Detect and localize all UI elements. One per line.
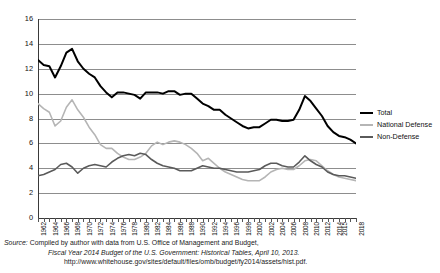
x-axis-tick <box>135 218 136 222</box>
x-axis-tick <box>129 218 130 222</box>
y-axis-tick-label: 2 <box>5 189 33 196</box>
x-axis-tick <box>55 218 56 222</box>
legend-item: Non-Defense <box>360 132 438 142</box>
x-axis-tick-label: 1972 <box>97 222 104 236</box>
x-axis-tick <box>339 218 340 222</box>
x-axis-tick-label: 2012 <box>324 222 331 236</box>
x-axis-tick-label: 1982 <box>154 222 161 236</box>
x-axis-tick <box>146 218 147 222</box>
x-axis-tick <box>333 218 334 222</box>
x-axis-tick-label: 2010 <box>313 222 320 236</box>
y-axis-labels: 0246810121416 <box>0 0 33 238</box>
x-axis-tick <box>288 218 289 222</box>
x-axis-tick <box>174 218 175 222</box>
x-axis-tick <box>169 218 170 222</box>
x-axis-tick <box>259 218 260 222</box>
legend-swatch <box>360 136 373 138</box>
x-axis-tick <box>140 218 141 222</box>
x-axis-tick-label: 1964 <box>52 222 59 236</box>
x-axis-tick <box>299 218 300 222</box>
x-axis-tick <box>322 218 323 222</box>
x-axis-tick <box>265 218 266 222</box>
x-axis-tick <box>38 218 39 222</box>
x-axis-tick <box>242 218 243 222</box>
x-axis-tick <box>294 218 295 222</box>
x-axis-tick <box>305 218 306 222</box>
y-axis-tick-label: 12 <box>5 65 33 72</box>
x-axis-tick-label: 1992 <box>211 222 218 236</box>
x-axis-tick <box>277 218 278 222</box>
x-axis-tick <box>72 218 73 222</box>
x-axis-tick <box>95 218 96 222</box>
x-axis-tick <box>220 218 221 222</box>
legend-item: National Defense <box>360 120 438 130</box>
x-axis-tick-label: 2002 <box>268 222 275 236</box>
x-axis-tick-label: 1998 <box>245 222 252 236</box>
x-axis-tick <box>186 218 187 222</box>
y-axis-tick-label: 14 <box>5 40 33 47</box>
x-axis-tick <box>191 218 192 222</box>
x-axis-tick-label: 2004 <box>279 222 286 236</box>
y-axis-tick-label: 4 <box>5 164 33 171</box>
source-line-1: Compiled by author with data from U.S. O… <box>30 239 259 246</box>
source-note: Source: Compiled by author with data fro… <box>4 238 434 267</box>
x-axis-tick <box>356 218 357 222</box>
x-axis-tick <box>106 218 107 222</box>
x-axis-tick <box>112 218 113 222</box>
x-axis-tick-label: 1976 <box>120 222 127 236</box>
x-axis-tick <box>118 218 119 222</box>
x-axis-tick-label: 2018 <box>358 222 365 236</box>
series-line-non-defense <box>38 153 356 178</box>
x-axis-tick-label: 2015 <box>341 222 348 236</box>
x-axis-tick-label: 1990 <box>199 222 206 236</box>
x-axis-tick <box>78 218 79 222</box>
series-lines <box>38 19 356 218</box>
x-axis-tick <box>83 218 84 222</box>
x-axis-tick <box>271 218 272 222</box>
x-axis-tick-label: 1986 <box>177 222 184 236</box>
x-axis-tick <box>328 218 329 222</box>
chart-figure: 0246810121416 19621964196619681970197219… <box>0 0 440 238</box>
x-axis-tick <box>311 218 312 222</box>
x-axis-tick <box>61 218 62 222</box>
x-axis-tick-label: 1988 <box>188 222 195 236</box>
x-axis-tick <box>49 218 50 222</box>
x-axis-tick <box>157 218 158 222</box>
x-axis-tick-label: 1970 <box>86 222 93 236</box>
legend-swatch <box>360 112 373 114</box>
x-axis-tick <box>282 218 283 222</box>
x-axis-tick <box>197 218 198 222</box>
y-axis-tick-label: 8 <box>5 115 33 122</box>
y-axis-tick-label: 10 <box>5 90 33 97</box>
x-axis-tick-label: 1966 <box>63 222 70 236</box>
x-axis-tick <box>214 218 215 222</box>
x-axis-tick-label: 1984 <box>165 222 172 236</box>
y-axis-tick-label: 16 <box>5 15 33 22</box>
x-axis-tick <box>203 218 204 222</box>
x-axis-tick <box>254 218 255 222</box>
legend-label: National Defense <box>377 121 432 128</box>
x-axis-tick <box>180 218 181 222</box>
x-axis-tick <box>100 218 101 222</box>
x-axis-tick <box>316 218 317 222</box>
x-axis-tick-label: 1994 <box>222 222 229 236</box>
legend-label: Non-Defense <box>377 133 419 140</box>
x-axis-tick <box>44 218 45 222</box>
x-axis-tick-label: 2000 <box>256 222 263 236</box>
x-axis-tick-label: 2006 <box>290 222 297 236</box>
x-axis-tick-label: 1980 <box>143 222 150 236</box>
y-axis-tick-label: 6 <box>5 139 33 146</box>
x-axis-tick <box>248 218 249 222</box>
x-axis-tick <box>208 218 209 222</box>
x-axis-tick-label: 2008 <box>302 222 309 236</box>
legend-label: Total <box>377 109 392 116</box>
x-axis-tick <box>231 218 232 222</box>
x-axis-tick-label: 1974 <box>109 222 116 236</box>
x-axis-tick-label: 1996 <box>233 222 240 236</box>
legend-item: Total <box>360 108 438 118</box>
y-axis-tick-label: 0 <box>5 214 33 221</box>
x-axis-tick <box>89 218 90 222</box>
x-axis-tick-label: 1962 <box>40 222 47 236</box>
chart-legend: TotalNational DefenseNon-Defense <box>360 108 438 144</box>
chart-page: 0246810121416 19621964196619681970197219… <box>0 0 440 273</box>
